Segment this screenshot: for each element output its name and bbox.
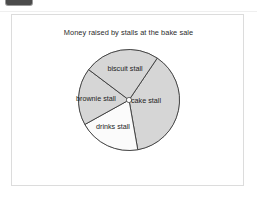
- pie-chart-svg: cake stalldrinks stallbrownie stallbiscu…: [70, 41, 188, 159]
- chart-title: Money raised by stalls at the bake sale: [12, 28, 245, 37]
- cropped-toolbar-pill[interactable]: [6, 0, 32, 5]
- worksheet-card: Money raised by stalls at the bake sale …: [11, 14, 244, 186]
- pie-label-drinks-stall: drinks stall: [96, 122, 130, 131]
- pie-label-cake-stall: cake stall: [131, 96, 161, 105]
- pie-label-biscuit-stall: biscuit stall: [107, 64, 143, 73]
- pie-chart: cake stalldrinks stallbrownie stallbiscu…: [70, 41, 188, 159]
- page-divider: [0, 11, 257, 12]
- pie-label-brownie-stall: brownie stall: [76, 94, 116, 103]
